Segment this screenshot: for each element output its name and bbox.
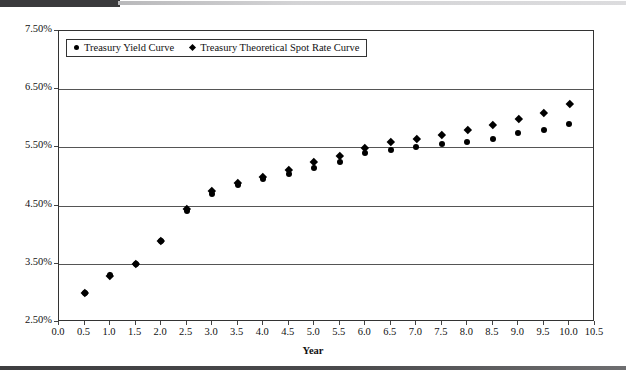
data-point-yield-curve (311, 165, 317, 171)
data-point-yield-curve (464, 139, 470, 145)
chart-plot-area (58, 30, 594, 321)
x-axis-tick-mark (594, 321, 595, 325)
circle-marker-icon (74, 45, 79, 50)
legend-entry-spot-rate-curve: Treasury Theoretical Spot Rate Curve (190, 42, 359, 53)
data-point-spot-rate (412, 135, 420, 143)
x-axis-tick-mark (568, 321, 569, 325)
data-point-spot-rate (132, 260, 140, 268)
diamond-marker-icon (189, 44, 196, 51)
x-axis-tick-mark (84, 321, 85, 325)
chart-legend: Treasury Yield Curve Treasury Theoretica… (66, 39, 367, 57)
top-rule-dark-segment (0, 0, 120, 7)
data-point-spot-rate (540, 109, 548, 117)
data-point-spot-rate (361, 143, 369, 151)
x-axis-tick-mark (543, 321, 544, 325)
data-point-spot-rate (106, 271, 114, 279)
x-axis-tick-mark (339, 321, 340, 325)
y-axis-tick-label: 6.50% (0, 81, 52, 92)
x-axis-tick-mark (262, 321, 263, 325)
gridline (59, 147, 593, 148)
x-axis-tick-mark (109, 321, 110, 325)
x-axis-tick-mark (441, 321, 442, 325)
data-point-spot-rate (514, 114, 522, 122)
data-point-yield-curve (566, 121, 572, 127)
x-axis-tick-mark (237, 321, 238, 325)
x-axis-tick-mark (288, 321, 289, 325)
x-axis-tick-mark (517, 321, 518, 325)
x-axis-tick-mark (492, 321, 493, 325)
data-point-yield-curve (515, 130, 521, 136)
data-point-yield-curve (337, 159, 343, 165)
x-axis-tick-mark (364, 321, 365, 325)
data-point-spot-rate (489, 121, 497, 129)
y-axis-tick-label: 5.50% (0, 139, 52, 150)
legend-label-yield-curve: Treasury Yield Curve (84, 42, 174, 53)
y-axis-tick-label: 2.50% (0, 314, 52, 325)
y-axis-tick-label: 7.50% (0, 23, 52, 34)
data-point-spot-rate (387, 138, 395, 146)
legend-label-spot-rate-curve: Treasury Theoretical Spot Rate Curve (200, 42, 359, 53)
data-point-yield-curve (388, 147, 394, 153)
data-point-yield-curve (413, 144, 419, 150)
x-axis-tick-mark (58, 321, 59, 325)
x-axis-tick-mark (390, 321, 391, 325)
bottom-decorative-rule (0, 366, 626, 370)
x-axis-tick-mark (313, 321, 314, 325)
x-axis-tick-label: 10.5 (574, 326, 614, 337)
legend-entry-yield-curve: Treasury Yield Curve (74, 42, 174, 53)
data-point-spot-rate (438, 131, 446, 139)
top-rule-light-segment (118, 1, 626, 5)
x-axis-tick-mark (415, 321, 416, 325)
top-decorative-rule (0, 0, 626, 7)
data-point-yield-curve (490, 136, 496, 142)
x-axis-tick-mark (186, 321, 187, 325)
data-point-spot-rate (463, 126, 471, 134)
data-point-spot-rate (566, 100, 574, 108)
x-axis-tick-mark (135, 321, 136, 325)
y-axis-tick-label: 3.50% (0, 256, 52, 267)
gridline (59, 89, 593, 90)
x-axis-title: Year (0, 345, 626, 356)
gridline (59, 206, 593, 207)
x-axis-tick-mark (160, 321, 161, 325)
y-axis-tick-label: 4.50% (0, 198, 52, 209)
x-axis-tick-mark (211, 321, 212, 325)
x-axis-tick-mark (466, 321, 467, 325)
data-point-yield-curve (541, 127, 547, 133)
